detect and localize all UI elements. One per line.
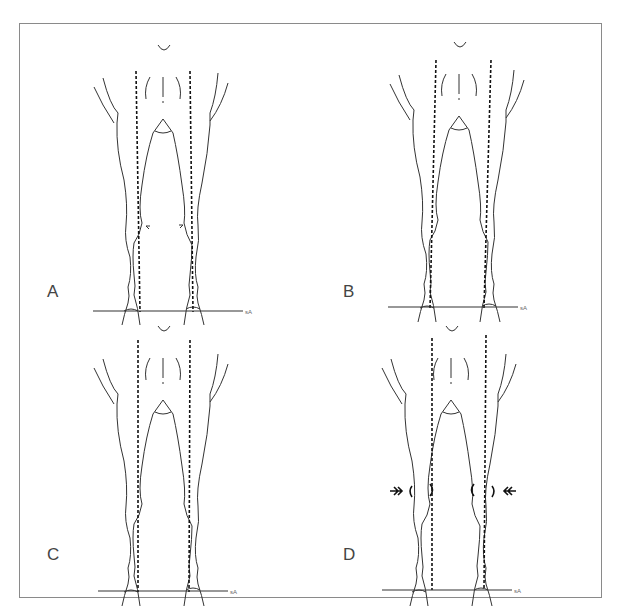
svg-text:sA: sA <box>245 309 252 315</box>
svg-text:sA: sA <box>230 589 237 595</box>
panel-a: sA <box>93 45 252 325</box>
panel-c: sA <box>94 326 237 606</box>
panel-d: sA <box>382 326 521 606</box>
panel-label-a: A <box>47 282 58 302</box>
svg-text:sA: sA <box>514 588 521 594</box>
panel-label-d: D <box>343 545 355 565</box>
limb-conformation-figure: sA sA sA sA <box>0 0 617 610</box>
panel-label-c: C <box>47 545 59 565</box>
arrow-icon-right-knee <box>179 225 183 228</box>
double-arrow-icon-right <box>504 487 516 495</box>
arrow-icon-left-knee <box>146 226 150 229</box>
panel-label-b: B <box>343 282 354 302</box>
panel-b: sA <box>388 42 527 322</box>
double-arrow-icon-left <box>390 487 402 495</box>
svg-text:sA: sA <box>520 305 527 311</box>
